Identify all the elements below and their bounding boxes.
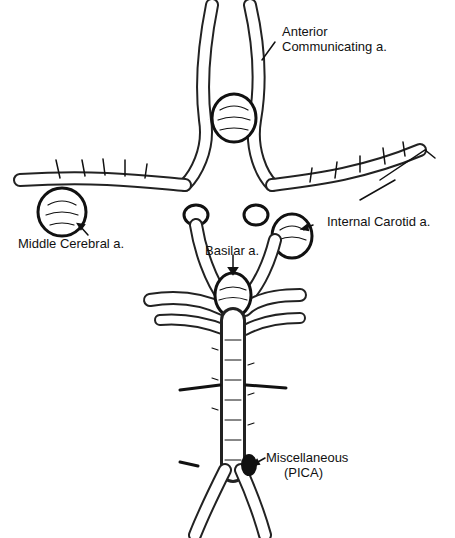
label-misc-line1: Miscellaneous [266,450,348,465]
label-anterior-line1: Anterior [282,24,328,39]
diagram-canvas: Anterior Communicating a. Middle Cerebra… [0,0,455,538]
label-basilar: Basilar a. [205,243,259,258]
label-misc-line2: (PICA) [284,465,323,480]
label-internal-carotid: Internal Carotid a. [327,214,430,229]
artery-illustration [0,0,455,538]
label-anterior-line2: Communicating a. [282,39,387,54]
label-middle-cerebral: Middle Cerebral a. [18,236,124,251]
